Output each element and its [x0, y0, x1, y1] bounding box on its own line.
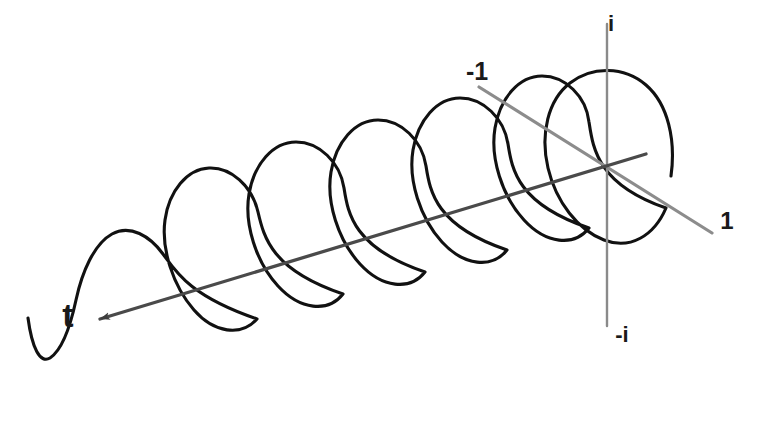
- axis-label-time: t: [62, 296, 73, 334]
- axis-label-real-positive: 1: [720, 207, 733, 234]
- axis-label-imaginary-negative: -i: [615, 322, 628, 347]
- axis-label-imaginary-positive: i: [608, 11, 614, 36]
- axis-label-real-negative: -1: [466, 57, 488, 85]
- helix-diagram-svg: i -i 1 -1 t: [0, 0, 759, 442]
- figure-canvas: i -i 1 -1 t: [0, 0, 759, 442]
- figure-background: [0, 0, 759, 442]
